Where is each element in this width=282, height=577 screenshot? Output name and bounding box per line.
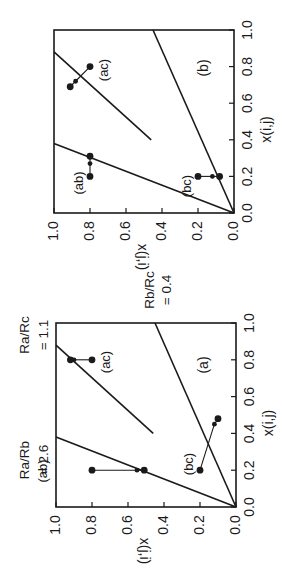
y-axis-tick-label: 0.2 (189, 221, 205, 241)
data-point (212, 422, 217, 427)
x-axis-tick-label: 1.0 (239, 20, 255, 40)
x-axis-tick-label: 0.0 (239, 203, 255, 223)
pair-label: (ac) (96, 59, 111, 81)
data-point (141, 467, 148, 474)
y-axis-tick-label: 0.0 (225, 221, 241, 241)
y-axis-tick-label: 0.6 (119, 515, 135, 535)
data-point (73, 79, 78, 84)
pair-label: (ab) (71, 171, 86, 194)
data-point (87, 63, 94, 70)
pair-label: (ac) (98, 351, 113, 373)
data-point (87, 173, 94, 180)
data-point (195, 173, 202, 180)
x-axis-tick-label: 0.8 (239, 57, 255, 77)
y-axis-tick-label: 0.2 (191, 515, 207, 535)
plot-frame (56, 323, 236, 507)
y-axis-tick-label: 1.0 (47, 515, 63, 535)
ratio-label-bc: Rb/Rc (142, 271, 157, 309)
x-axis-tick-label: 0.2 (239, 166, 255, 186)
ratio-label-ab-value: = 2.6 (36, 445, 51, 475)
data-point (87, 153, 94, 160)
y-axis-title: x(j,i) (137, 538, 153, 564)
x-axis-tick-label: 0.6 (239, 93, 255, 113)
y-axis-tick-label: 0.6 (117, 221, 133, 241)
y-axis-tick-label: 0.0 (227, 515, 243, 535)
pair-label: (bc) (181, 453, 196, 475)
data-point (197, 467, 204, 474)
x-axis-title: x(i,j) (258, 116, 274, 142)
x-axis-tick-label: 0.0 (241, 497, 257, 517)
ratio-label-bc-value: = 0.4 (159, 274, 174, 305)
x-axis-tick-label: 0.4 (239, 130, 255, 150)
ratio-label-ac: Ra/Rc (17, 316, 32, 354)
x-axis-tick-label: 0.8 (241, 350, 257, 370)
y-axis-tick-label: 0.8 (83, 515, 99, 535)
x-axis-tick-label: 0.6 (241, 387, 257, 407)
ratio-label-ab: Ra/Rb (17, 441, 32, 479)
panel-tag: (b) (195, 59, 211, 76)
ratio-label-ac-value: = 1.1 (36, 320, 51, 350)
data-point (89, 356, 96, 363)
x-axis-tick-label: 0.4 (241, 423, 257, 443)
panel-tag: (a) (195, 356, 211, 373)
x-axis-tick-label: 0.2 (241, 460, 257, 480)
y-axis-tick-label: 0.4 (155, 515, 171, 535)
x-axis-title: x(i,j) (260, 410, 276, 436)
x-axis-tick-label: 1.0 (241, 313, 257, 333)
data-point (216, 173, 223, 180)
y-axis-tick-label: 0.8 (81, 221, 97, 241)
data-point (88, 161, 93, 166)
y-axis-tick-label: 0.4 (153, 221, 169, 241)
panel-a-chart: 0.00.00.20.20.40.40.60.60.80.81.01.0x(i,… (17, 271, 276, 564)
data-point (135, 468, 140, 473)
panel-b-chart: 0.00.00.20.20.40.40.60.60.80.81.01.0x(i,… (45, 20, 274, 270)
pair-label: (bc) (179, 175, 194, 197)
figure-canvas: 0.00.00.20.20.40.40.60.60.80.81.01.0x(i,… (0, 0, 282, 577)
y-axis-title: x(j,i) (135, 244, 151, 270)
data-point (67, 83, 74, 90)
data-point (210, 174, 215, 179)
data-point (215, 415, 222, 422)
y-axis-tick-label: 1.0 (45, 221, 61, 241)
data-point (67, 356, 74, 363)
data-point (89, 467, 96, 474)
